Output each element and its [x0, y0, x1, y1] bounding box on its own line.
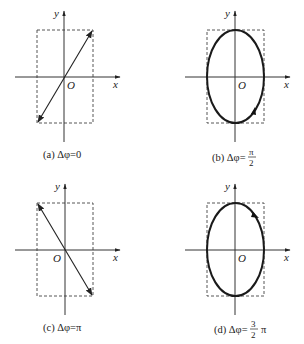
panel-b: y x O (b) Δφ= π 2	[185, 7, 290, 168]
panel-d: y x O (d) Δφ= 3 2 π	[185, 180, 290, 340]
svg-text:2: 2	[251, 330, 256, 340]
svg-text:(d) Δφ=: (d) Δφ=	[214, 324, 248, 336]
svg-text:π: π	[261, 324, 267, 335]
y-axis-label: y	[224, 180, 230, 192]
x-axis-label: x	[283, 251, 289, 263]
y-axis-label: y	[224, 7, 230, 19]
caption-b: (b) Δφ= π 2	[212, 147, 256, 168]
caption-a: (a) Δφ=0	[43, 149, 81, 161]
x-axis-label: x	[112, 251, 118, 263]
svg-text:2: 2	[249, 158, 254, 168]
origin-label: O	[67, 79, 75, 91]
origin-label: O	[53, 252, 61, 264]
phase-figure: y x O (a) Δφ=0 y x O (b) Δφ= π 2 y x O (…	[0, 0, 304, 344]
x-axis-label: x	[283, 78, 289, 90]
svg-text:(b) Δφ=: (b) Δφ=	[212, 152, 246, 164]
svg-text:π: π	[249, 147, 254, 157]
x-axis-label: x	[112, 78, 118, 90]
panel-c: y x O (c) Δφ=π	[15, 180, 120, 334]
caption-d: (d) Δφ= 3 2 π	[214, 319, 267, 340]
caption-c: (c) Δφ=π	[43, 322, 82, 334]
svg-text:3: 3	[251, 319, 256, 329]
y-axis-label: y	[54, 180, 60, 192]
y-axis-label: y	[53, 7, 59, 19]
origin-label: O	[238, 252, 246, 264]
panel-a: y x O (a) Δφ=0	[15, 7, 120, 161]
origin-label: O	[238, 79, 246, 91]
